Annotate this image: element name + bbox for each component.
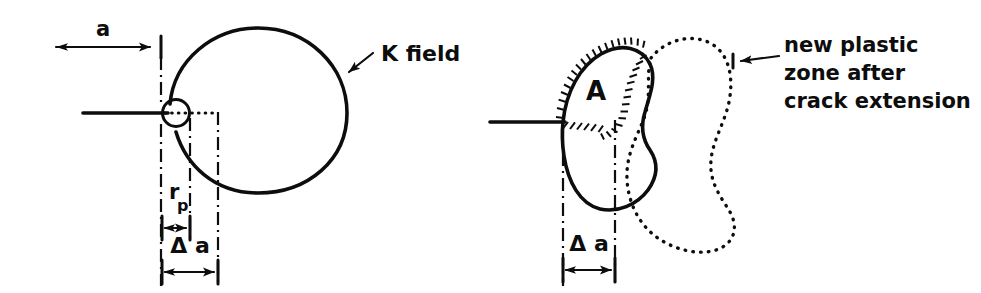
hatch-bottom-edge [563, 122, 603, 132]
new-plastic-zone-outline-dotted [627, 39, 734, 253]
hatch-inner-arc [601, 55, 647, 140]
crack-extension-dimension: Δ a [162, 233, 218, 284]
k-field-leader-arrow [349, 53, 373, 72]
new-plastic-zone-leader-arrow [733, 54, 779, 68]
figure-root: a K field r p [0, 0, 981, 293]
plastic-zone-radius-dimension: r p [162, 180, 190, 240]
k-field-label: K field [381, 41, 460, 66]
technical-diagram: a K field r p [0, 0, 981, 293]
callout-line-1: new plastic [784, 33, 919, 57]
delta-a-label: Δ a [569, 231, 609, 256]
plastic-zone-extension-panel: A Δ a new plastic zone after crack exten… [490, 33, 971, 286]
crack-length-label: a [96, 17, 110, 41]
callout-line-3: crack extension [784, 89, 971, 113]
crack-length-dimension: a [56, 17, 161, 58]
k-field-boundary [170, 28, 347, 193]
callout-line-2: zone after [784, 61, 906, 85]
region-a-label: A [586, 76, 606, 106]
k-field-panel: a K field r p [56, 17, 460, 286]
rp-label-subscript: p [177, 196, 188, 215]
delta-a-label: Δ a [170, 233, 210, 258]
crack-extension-dimension: Δ a [563, 231, 615, 282]
